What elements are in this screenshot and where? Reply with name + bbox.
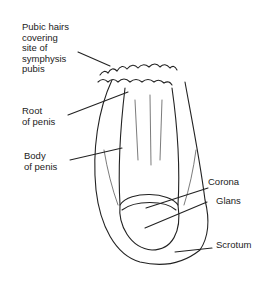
label-body-of-penis: Body of penis [24,151,57,172]
label-pubic-hairs: Pubic hairs covering site of symphysis p… [22,22,69,75]
label-corona: Corona [208,177,239,188]
anatomy-diagram: Pubic hairs covering site of symphysis p… [0,0,271,283]
label-root-of-penis: Root of penis [22,106,55,127]
label-glans: Glans [216,196,241,207]
label-scrotum: Scrotum [216,240,251,251]
